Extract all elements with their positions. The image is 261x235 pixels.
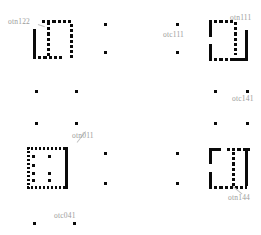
grid-dot <box>176 182 179 185</box>
glyph-segment-left <box>209 148 212 164</box>
grid-dot <box>33 222 36 225</box>
glyph-segment-bottom <box>209 58 235 61</box>
glyph-segment-top <box>27 147 67 150</box>
grid-dot <box>35 122 38 125</box>
glyph-interior-dot <box>48 155 51 158</box>
annotation-label-otn144: otn144 <box>228 194 250 202</box>
grid-dot <box>214 90 217 93</box>
grid-dot <box>214 122 217 125</box>
glyph-segment-interior-vertical <box>47 22 50 57</box>
annotation-label-otn111: otn111 <box>230 14 251 22</box>
glyph-segment-right <box>70 24 73 59</box>
glyph-segment-left <box>27 147 30 189</box>
glyph-segment-bottom <box>27 186 67 189</box>
grid-dot <box>35 90 38 93</box>
grid-dot <box>246 90 249 93</box>
annotation-label-otc041: otc041 <box>54 212 76 220</box>
glyph-segment-right <box>65 147 68 189</box>
glyph-otn144 <box>209 148 250 189</box>
grid-dot <box>104 182 107 185</box>
grid-dot <box>104 152 107 155</box>
grid-dot <box>75 122 78 125</box>
glyph-interior-dot <box>32 172 35 175</box>
grid-dot <box>176 23 179 26</box>
figure-canvas: otn122 otc111 otn111 otc141 otn011 otn14… <box>0 0 261 235</box>
glyph-interior-dot <box>48 179 51 182</box>
grid-dot <box>104 51 107 54</box>
grid-dot <box>176 152 179 155</box>
glyph-otn011 <box>27 147 70 189</box>
glyph-interior-dot <box>48 172 51 175</box>
grid-dot <box>176 51 179 54</box>
grid-dot <box>75 90 78 93</box>
glyph-segment-bottom <box>209 186 247 189</box>
grid-dot <box>104 23 107 26</box>
glyph-segment-left <box>209 20 212 37</box>
glyph-segment-interior-vertical <box>234 22 237 55</box>
glyph-interior-dot <box>32 155 35 158</box>
grid-dot <box>73 222 76 225</box>
annotation-label-otn011: otn011 <box>72 132 94 140</box>
glyph-segment-left <box>33 29 36 59</box>
annotation-label-otc111: otc111 <box>163 31 184 39</box>
glyph-segment-bottom-right <box>233 58 248 61</box>
grid-dot <box>246 122 249 125</box>
glyph-segment-right <box>245 30 248 61</box>
glyph-interior-dot <box>32 164 35 167</box>
glyph-interior-dot <box>32 179 35 182</box>
annotation-label-otn122: otn122 <box>8 18 30 26</box>
glyph-otn111 <box>209 20 250 61</box>
glyph-otn122 <box>33 20 73 59</box>
annotation-label-otc141: otc141 <box>232 95 254 103</box>
glyph-segment-right <box>245 148 248 186</box>
glyph-segment-interior-vertical <box>232 152 235 186</box>
